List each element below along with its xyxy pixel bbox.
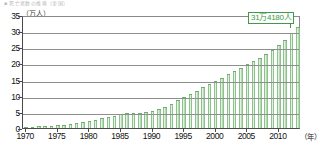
gridline [23,114,299,115]
bar [258,58,262,128]
gridline [23,49,299,50]
y-axis-tick-label: 20 [0,59,20,69]
y-axis-tick-mark [18,32,22,33]
bar [43,126,47,128]
bar [195,91,199,128]
y-axis-tick-mark [18,97,22,98]
bar [208,84,212,128]
x-axis-tick-label: 1995 [168,131,198,141]
bar [132,113,136,128]
bar [107,117,111,128]
x-axis-tick-label: 2010 [263,131,293,141]
y-axis-tick-mark [18,16,22,17]
x-axis-tick-label: 1990 [137,131,167,141]
bar [62,125,66,128]
bar [296,27,300,128]
bar [125,113,129,128]
bar [94,120,98,128]
bar [119,114,123,128]
bar [220,78,224,128]
y-axis-tick-mark [18,81,22,82]
x-axis-tick-label: 1970 [10,131,40,141]
bar [69,124,73,128]
x-axis-tick-label: 1985 [105,131,135,141]
bar [271,50,275,128]
gridline [23,82,299,83]
bar-chart: ■ 死亡者数の推移（全国） （万人） （年） 31万4180人 05101520… [0,0,324,149]
y-axis-tick-label: 10 [0,92,20,102]
gridline [23,98,299,99]
bar [24,127,28,128]
bar [100,118,104,128]
bar [56,125,60,128]
plot-area [22,16,300,129]
bar [50,126,54,128]
y-axis-tick-label: 35 [0,11,20,21]
y-axis-tick-label: 25 [0,43,20,53]
bar [189,94,193,128]
bar [157,109,161,128]
bar [31,127,35,128]
bar [277,45,281,128]
x-axis-tick-label: 1975 [42,131,72,141]
y-axis-tick-mark [18,113,22,114]
x-axis-tick-label: 1980 [73,131,103,141]
y-axis-tick-mark [18,129,22,130]
x-axis-tick-label: 2000 [200,131,230,141]
bar [88,121,92,128]
y-axis-tick-mark [18,64,22,65]
bar [81,122,85,128]
chart-title-cropped: ■ 死亡者数の推移（全国） [4,0,304,6]
value-callout: 31万4180人 [248,12,294,24]
bar [113,116,117,128]
bar [37,126,41,128]
bar [201,87,205,128]
bar [170,104,174,128]
x-axis-tick-label: 2005 [231,131,261,141]
bar [246,64,250,128]
y-axis-tick-label: 30 [0,27,20,37]
bar [182,97,186,128]
bar [214,81,218,128]
y-axis-tick-label: 5 [0,108,20,118]
x-axis-unit-label: （年） [300,131,321,142]
bar [233,71,237,128]
y-axis-tick-mark [18,48,22,49]
y-axis-tick-label: 15 [0,76,20,86]
bar [163,107,167,128]
gridline [23,33,299,34]
gridline [23,65,299,66]
bar [75,123,79,128]
bar [252,61,256,128]
